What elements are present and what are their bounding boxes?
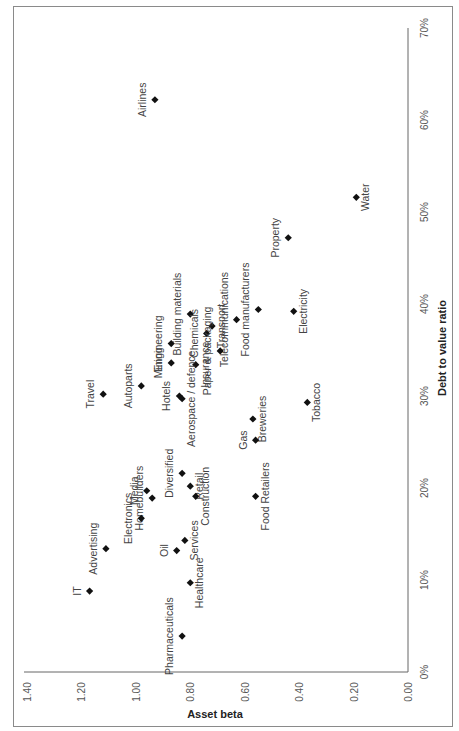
data-points: AirlinesWaterPropertyFood manufacturersE… <box>71 83 372 675</box>
diamond-marker-icon <box>138 382 145 389</box>
x-tick-label: 40% <box>419 294 430 314</box>
diamond-marker-icon <box>173 547 180 554</box>
point-label: Electronics <box>122 493 134 544</box>
x-tick-label: 70% <box>419 18 430 38</box>
data-point: Healthcare <box>187 557 206 608</box>
data-point: Travel <box>84 380 107 409</box>
point-label: Pharmaceuticals <box>163 597 175 675</box>
point-label: Autoparts <box>122 363 134 408</box>
point-label: Oil <box>158 544 170 557</box>
data-point: Autoparts <box>122 363 145 408</box>
point-label: Advertising <box>87 523 99 575</box>
data-point: Hotels <box>160 381 183 411</box>
data-point: Electricity <box>290 288 309 334</box>
diamond-marker-icon <box>102 545 109 552</box>
point-label: Food manufacturers <box>239 263 251 357</box>
diamond-marker-icon <box>168 359 175 366</box>
data-point: Services <box>181 520 200 560</box>
data-point: Oil <box>158 544 181 557</box>
diamond-marker-icon <box>100 391 107 398</box>
diamond-marker-icon <box>285 234 292 241</box>
x-tick-label: 30% <box>419 386 430 406</box>
point-label: Airlines <box>136 83 148 117</box>
data-point: Advertising <box>87 523 110 575</box>
scatter-chart: 0%10%20%30%40%50%60%70% 0.000.200.400.60… <box>0 0 459 731</box>
point-label: Healthcare <box>193 557 205 608</box>
y-tick-label: 0.40 <box>294 682 305 702</box>
data-point: Food manufacturers <box>239 263 262 357</box>
y-tick-label: 0.60 <box>240 682 251 702</box>
point-label: Diversified <box>163 449 175 498</box>
data-point: Airlines <box>136 83 159 117</box>
point-label: Mining <box>152 347 164 378</box>
y-axis-ticks: 0.000.200.400.600.801.001.201.40 <box>22 682 414 702</box>
point-label: Property <box>269 217 281 257</box>
data-point: Water <box>353 183 372 211</box>
data-point: Breweries <box>249 396 268 443</box>
y-axis-title: Asset beta <box>187 708 244 720</box>
diamond-marker-icon <box>86 587 93 594</box>
y-tick-label: 0.80 <box>185 682 196 702</box>
y-tick-label: 1.00 <box>131 682 142 702</box>
point-label: Aerospace / defence <box>185 350 197 446</box>
data-point: IT <box>71 586 94 596</box>
axes <box>24 28 408 672</box>
point-label: IT <box>71 586 83 596</box>
x-tick-label: 10% <box>419 570 430 590</box>
x-axis-title: Debt to value ratio <box>436 300 448 396</box>
point-label: Construction <box>199 467 211 526</box>
diamond-marker-icon <box>179 470 186 477</box>
point-label: Breweries <box>256 396 268 443</box>
y-tick-label: 0.00 <box>403 682 414 702</box>
y-tick-label: 1.40 <box>22 682 33 702</box>
diamond-marker-icon <box>179 633 186 640</box>
point-label: Hotels <box>160 381 172 411</box>
x-tick-label: 20% <box>419 478 430 498</box>
diamond-marker-icon <box>255 306 262 313</box>
data-point: Diversified <box>163 449 186 498</box>
data-point: Property <box>269 217 292 257</box>
x-tick-label: 60% <box>419 110 430 130</box>
y-tick-label: 1.20 <box>76 682 87 702</box>
x-axis-ticks: 0%10%20%30%40%50%60%70% <box>419 18 430 679</box>
data-point: Homebuilders <box>133 466 156 531</box>
diamond-marker-icon <box>149 495 156 502</box>
point-label: Services <box>188 520 200 560</box>
diamond-marker-icon <box>151 96 158 103</box>
point-label: Food Retailers <box>259 462 271 530</box>
data-point: Pharmaceuticals <box>163 597 186 675</box>
point-label: Tobacco <box>310 383 322 422</box>
point-label: Homebuilders <box>133 466 145 531</box>
data-point: Tobacco <box>304 383 323 422</box>
y-tick-label: 0.20 <box>349 682 360 702</box>
x-tick-label: 50% <box>419 202 430 222</box>
point-label: Electricity <box>297 288 309 334</box>
point-label: Insurance <box>199 342 211 388</box>
point-label: Transport <box>215 304 227 349</box>
x-tick-label: 0% <box>419 665 430 680</box>
data-point: Food Retailers <box>252 462 271 530</box>
point-label: Water <box>359 183 371 211</box>
point-label: Travel <box>84 380 96 409</box>
data-point: Aerospace / defence <box>179 350 198 446</box>
point-label: Gas <box>237 431 249 450</box>
